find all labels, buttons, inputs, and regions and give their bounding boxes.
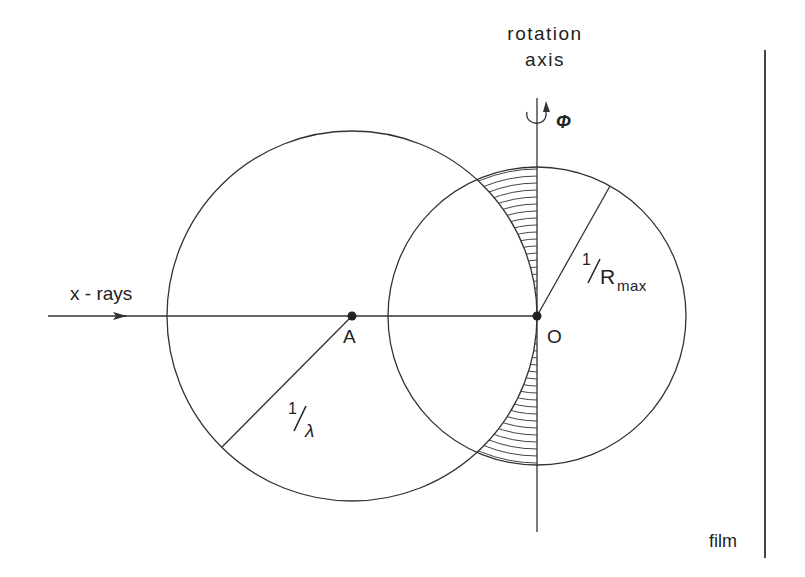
ewald-sphere-diagram: rotation axis Φ x - rays A O 1 λ 1 R max… [0,0,805,577]
axis-label: axis [525,49,565,70]
phi-label: Φ [556,112,571,132]
rmax-radius-line [537,186,610,316]
inv-rmax-denominator: R [600,265,615,288]
ewald-radius-line [222,316,352,447]
inv-lambda-numerator: 1 [288,400,297,417]
point-o-dot [533,312,542,321]
point-a-dot [348,312,357,321]
film-label: film [709,531,737,551]
point-o-label: O [547,326,562,347]
inv-rmax-subscript: max [617,277,647,294]
rotation-arrowhead-icon [543,101,550,112]
inv-lambda-denominator: λ [304,420,314,441]
inv-rmax-numerator: 1 [582,251,591,268]
rotation-label: rotation [507,23,582,44]
xrays-label: x - rays [70,283,132,304]
point-a-label: A [343,326,356,347]
